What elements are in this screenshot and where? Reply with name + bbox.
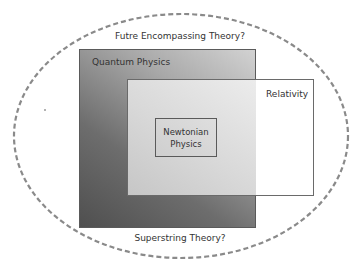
newtonian-label-line1: Newtonian	[163, 126, 208, 138]
scan-speck	[44, 109, 46, 111]
superstring-theory-label: Superstring Theory?	[0, 233, 360, 243]
newtonian-label-line2: Physics	[163, 138, 208, 150]
diagram-canvas: Futre Encompassing Theory? Quantum Physi…	[0, 0, 360, 269]
relativity-label: Relativity	[266, 89, 308, 99]
quantum-physics-label: Quantum Physics	[92, 57, 170, 67]
future-theory-label: Futre Encompassing Theory?	[0, 31, 360, 41]
newtonian-physics-box: Newtonian Physics	[155, 118, 217, 157]
